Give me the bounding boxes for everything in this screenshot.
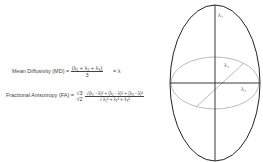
diffusion-ellipsoid-diagram: [0, 0, 263, 162]
lambda1-label: λ₁: [218, 12, 223, 18]
lambda2-label: λ₂: [241, 86, 246, 92]
lambda3-axis: [196, 63, 244, 107]
lambda3-label: λ₃: [224, 62, 229, 68]
